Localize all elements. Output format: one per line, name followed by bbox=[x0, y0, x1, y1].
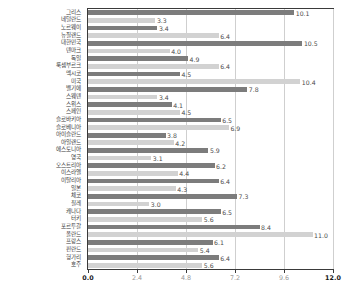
bar-value-label: 4.0 bbox=[171, 48, 181, 55]
category-label: 이스라엘 bbox=[61, 171, 81, 177]
bar bbox=[88, 209, 221, 214]
bar-value-label: 4.2 bbox=[175, 139, 185, 146]
category-label: 터키 bbox=[71, 216, 81, 222]
bar bbox=[88, 79, 300, 84]
bar-value-label: 4.1 bbox=[173, 101, 183, 108]
bar-value-label: 11.0 bbox=[314, 231, 328, 238]
bar-row: 10.5 bbox=[88, 41, 333, 46]
bar bbox=[88, 232, 313, 237]
bar-value-label: 4.4 bbox=[179, 170, 189, 177]
bar-row: 5.6 bbox=[88, 263, 333, 268]
bar-row: 4.0 bbox=[88, 49, 333, 54]
bar-value-label: 4.3 bbox=[177, 185, 187, 192]
bar bbox=[88, 133, 166, 138]
bar-value-label: 8.4 bbox=[261, 223, 271, 230]
bar bbox=[88, 56, 188, 61]
bar bbox=[88, 87, 247, 92]
bar-value-label: 6.1 bbox=[214, 239, 224, 246]
bar-value-label: 3.8 bbox=[167, 132, 177, 139]
bar-row: 10.4 bbox=[88, 79, 333, 84]
category-label: 헝가리 bbox=[66, 255, 81, 261]
bar-value-label: 7.8 bbox=[249, 86, 259, 93]
bar-row: 7.8 bbox=[88, 87, 333, 92]
xtick-label: 4.8 bbox=[181, 274, 191, 282]
category-label: 대한민국 bbox=[61, 41, 81, 47]
bar-value-label: 6.2 bbox=[216, 162, 226, 169]
bar-value-label: 6.4 bbox=[220, 178, 230, 185]
category-label: 스웨덴 bbox=[66, 94, 81, 100]
bar-row: 5.4 bbox=[88, 248, 333, 253]
bar bbox=[88, 41, 302, 46]
xtick-label: 12.0 bbox=[325, 274, 341, 282]
bar-row: 4.5 bbox=[88, 110, 333, 115]
bar-value-label: 5.9 bbox=[210, 147, 220, 154]
category-label: 캐나다 bbox=[66, 209, 81, 215]
bar-value-label: 3.4 bbox=[159, 25, 169, 32]
bar-row: 8.4 bbox=[88, 225, 333, 230]
bar-value-label: 6.9 bbox=[230, 124, 240, 131]
category-label: 영국 bbox=[71, 155, 81, 161]
bar-row: 4.1 bbox=[88, 102, 333, 107]
bar-row: 10.1 bbox=[88, 10, 333, 15]
bar bbox=[88, 140, 174, 145]
bar-row: 3.0 bbox=[88, 202, 333, 207]
category-label: 포르투갈 bbox=[61, 224, 81, 230]
bar-row: 6.5 bbox=[88, 209, 333, 214]
bar bbox=[88, 18, 155, 23]
category-label: 덴마크 bbox=[66, 48, 81, 54]
bar bbox=[88, 118, 221, 123]
bar bbox=[88, 72, 180, 77]
bar-row: 6.9 bbox=[88, 125, 333, 130]
bar-value-label: 6.4 bbox=[220, 63, 230, 70]
bar-row: 6.5 bbox=[88, 118, 333, 123]
bar-value-label: 3.3 bbox=[157, 17, 167, 24]
bar-value-label: 6.5 bbox=[222, 116, 232, 123]
bar-row: 6.4 bbox=[88, 255, 333, 260]
category-label: 룩셈부르크 bbox=[56, 64, 81, 70]
bar bbox=[88, 179, 219, 184]
category-label: 스페인 bbox=[66, 109, 81, 115]
category-label: 폴란드 bbox=[66, 232, 81, 238]
xtick-mark bbox=[235, 270, 236, 273]
bar-row: 4.2 bbox=[88, 140, 333, 145]
xtick-mark bbox=[137, 270, 138, 273]
bar bbox=[88, 225, 260, 230]
bar bbox=[88, 163, 215, 168]
category-label: 프랑스 bbox=[66, 239, 81, 245]
bar-value-label: 6.4 bbox=[220, 32, 230, 39]
category-label: 호주 bbox=[71, 262, 81, 268]
xtick-label: 9.6 bbox=[279, 274, 289, 282]
bar bbox=[88, 95, 157, 100]
bar-value-label: 6.4 bbox=[220, 254, 230, 261]
category-label: 아일랜드 bbox=[61, 140, 81, 146]
bar-row: 3.8 bbox=[88, 133, 333, 138]
category-label: 이탈리아 bbox=[61, 178, 81, 184]
bar bbox=[88, 33, 219, 38]
bar-row: 5.6 bbox=[88, 217, 333, 222]
bar-value-label: 4.5 bbox=[181, 70, 191, 77]
category-axis-labels: 그리스네덜란드노르웨이뉴질랜드대한민국덴마크독일룩셈부르크멕시코미국벨기에스웨덴… bbox=[0, 8, 84, 270]
bar-row: 6.4 bbox=[88, 64, 333, 69]
category-label: 칠레 bbox=[71, 201, 81, 207]
bar bbox=[88, 186, 176, 191]
bar bbox=[88, 171, 178, 176]
category-label: 그리스 bbox=[66, 10, 81, 16]
category-label: 슬로바키아 bbox=[56, 117, 81, 123]
category-label: 미국 bbox=[71, 79, 81, 85]
xtick-label: 0.0 bbox=[82, 274, 93, 282]
bar-value-label: 10.1 bbox=[296, 9, 310, 16]
bar-row: 4.9 bbox=[88, 56, 333, 61]
bar bbox=[88, 217, 202, 222]
bar-value-label: 4.9 bbox=[190, 55, 200, 62]
category-label: 뉴질랜드 bbox=[61, 33, 81, 39]
bars-layer: 10.13.33.46.410.54.04.96.44.510.47.83.44… bbox=[88, 9, 333, 269]
bar-row: 3.4 bbox=[88, 95, 333, 100]
bar-value-label: 3.1 bbox=[153, 155, 163, 162]
category-label: 독일 bbox=[71, 56, 81, 62]
xtick-mark bbox=[333, 270, 334, 273]
category-label: 일본 bbox=[71, 186, 81, 192]
bar-value-label: 10.4 bbox=[302, 78, 316, 85]
bar-row: 3.1 bbox=[88, 156, 333, 161]
bar-row: 5.9 bbox=[88, 148, 333, 153]
bar bbox=[88, 64, 219, 69]
